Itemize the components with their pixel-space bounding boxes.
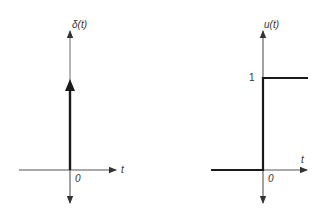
step-signal bbox=[211, 78, 308, 170]
step-x-label: t bbox=[301, 154, 305, 165]
impulse-origin-label: 0 bbox=[75, 173, 81, 184]
impulse-x-label: t bbox=[121, 164, 125, 175]
impulse-arrowhead-icon bbox=[65, 79, 75, 91]
step-plot: u(t) 1 t 0 bbox=[211, 19, 308, 203]
impulse-y-label: δ(t) bbox=[72, 19, 87, 30]
impulse-plot: δ(t) t 0 bbox=[19, 19, 125, 203]
step-origin-label: 0 bbox=[268, 173, 274, 184]
step-y-label: u(t) bbox=[264, 19, 279, 30]
signals-figure: δ(t) t 0 u(t) 1 t 0 bbox=[0, 0, 323, 211]
step-level-label: 1 bbox=[249, 72, 255, 83]
